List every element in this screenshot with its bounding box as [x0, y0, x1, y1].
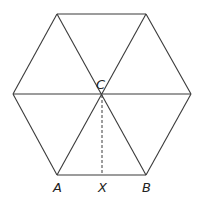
label-X: X	[97, 180, 108, 195]
edge-top-left	[13, 14, 57, 94]
label-C: C	[96, 77, 106, 92]
edge-bottom-left	[13, 94, 57, 175]
edge-bottom-right	[146, 94, 191, 175]
hexagon-diagram: C A X B	[0, 0, 202, 201]
edge-top-right	[146, 14, 191, 94]
label-A: A	[52, 180, 62, 195]
label-B: B	[142, 180, 151, 195]
